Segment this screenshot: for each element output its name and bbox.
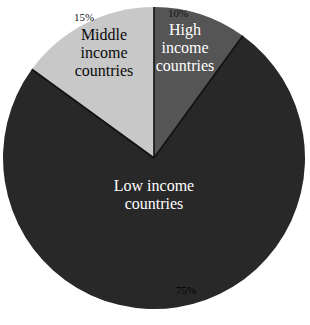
pie-chart: 15% Middle income countries 10% High inc… xyxy=(0,0,310,325)
pie-chart-canvas xyxy=(0,0,310,325)
